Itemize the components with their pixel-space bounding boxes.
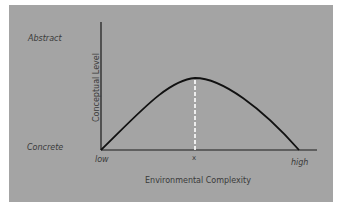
low-tick-label: low bbox=[95, 155, 109, 164]
concrete-label: Concrete bbox=[27, 143, 63, 152]
high-tick-label: high bbox=[291, 158, 308, 167]
x-axis-label: Environmental Complexity bbox=[145, 176, 251, 185]
y-axis-label: Conceptual Level bbox=[92, 53, 101, 122]
abstract-label: Abstract bbox=[28, 34, 62, 43]
inverted-u-curve bbox=[101, 78, 299, 150]
optimum-tick-label: x bbox=[192, 154, 196, 162]
